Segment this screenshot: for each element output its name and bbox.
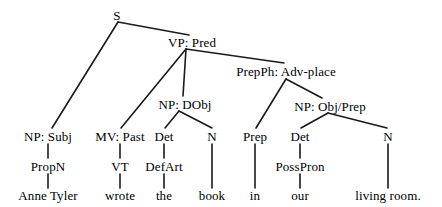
tree-node-vp: VP: Pred [168,36,216,49]
tree-node-w_our: our [291,189,309,202]
syntax-tree-diagram: SVP: PredPrepPh: Adv-placeNP: DObjNP: Ob… [0,0,442,207]
tree-edge-s-to-vp [118,22,189,35]
tree-node-propn: PropN [31,160,65,173]
tree-edge-np_objprep-to-det2 [301,113,328,128]
tree-edge-np_objprep-to-n2 [328,113,387,128]
tree-node-w_the: the [156,189,172,202]
tree-node-det2: Det [290,130,309,143]
tree-node-defart: DefArt [145,160,182,173]
tree-node-np_subj: NP: Subj [24,130,72,143]
tree-edge-vp-to-mv_past [121,49,186,128]
tree-edge-s-to-np_subj [52,22,118,128]
tree-edge-vp-to-prepph [186,49,284,63]
tree-node-prepph: PrepPh: Adv-place [236,65,336,78]
tree-node-w_living: living room. [355,189,420,202]
tree-edge-np_dobj-to-det1 [165,111,179,128]
tree-node-n2: N [383,130,393,143]
tree-edge-vp-to-np_dobj [183,49,186,96]
tree-node-vt: VT [111,160,129,173]
tree-node-w_wrote: wrote [105,189,135,202]
tree-node-np_dobj: NP: DObj [158,98,211,111]
tree-node-mv_past: MV: Past [95,130,144,143]
tree-node-n1: N [207,130,217,143]
tree-node-prep: Prep [243,130,267,143]
tree-node-det1: Det [154,130,173,143]
tree-edge-np_dobj-to-n1 [179,111,212,128]
tree-node-w_book: book [199,189,225,202]
tree-edge-prepph-to-np_objprep [286,79,322,98]
tree-edges-layer [0,0,442,207]
tree-edge-prepph-to-prep [256,79,286,128]
tree-node-posspron: PossPron [275,160,324,173]
tree-node-np_objprep: NP: Obj/Prep [294,100,366,113]
tree-node-s: S [113,9,120,22]
tree-node-w_in: in [250,189,260,202]
tree-node-w_anne: Anne Tyler [18,189,77,202]
